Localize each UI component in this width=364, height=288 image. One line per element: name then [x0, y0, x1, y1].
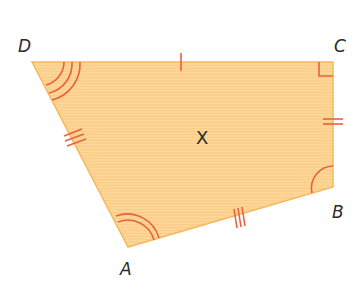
vertex-label-d: D	[18, 36, 31, 56]
vertex-label-b: B	[332, 202, 344, 222]
vertex-label-c: C	[334, 36, 346, 56]
quadrilateral-diagram: D C B A X	[0, 0, 364, 288]
center-label-x: X	[196, 127, 208, 148]
vertex-label-a: A	[119, 259, 132, 279]
quadrilateral-shape	[32, 62, 333, 247]
